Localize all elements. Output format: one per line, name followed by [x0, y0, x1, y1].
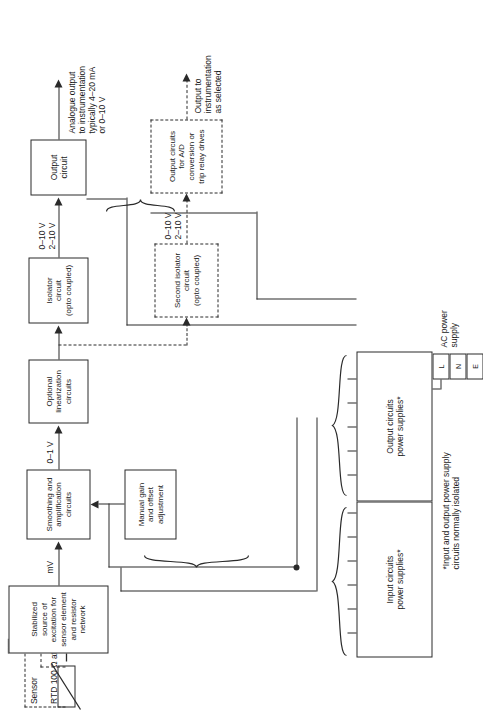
block-optional-linearization: Optional linearization circuits: [28, 359, 88, 423]
arrow-exc-to-smoothing: [54, 541, 62, 549]
wire-output-to-instrumentation: [186, 79, 187, 119]
block-output-circuit-label: Output circuit: [48, 154, 68, 180]
rail-output-b-riser: [188, 212, 256, 213]
block-output-circuit: Output circuit: [30, 139, 86, 195]
tap-to-second-isolator-run: [186, 323, 187, 345]
block-manual-gain-label: Manual gain and offset adjustment: [136, 482, 165, 526]
mains-feed-line: [440, 379, 441, 389]
terminal-E-label: E: [471, 364, 478, 369]
block-excitation-label: Stabilized source of excitation for sens…: [29, 589, 87, 649]
rail-input-secondary-feed: [120, 567, 121, 591]
arrow-output-to-instrumentation: [182, 73, 190, 81]
rail-output-a-drop: [126, 324, 356, 325]
block-second-isolator: Second isolator circuit (opto coupled): [154, 243, 218, 317]
annotation-analogue-output: Analogue output to instrumentation typic…: [66, 65, 106, 133]
block-output-circuits-ad: Output circuits for A/D conversion or tr…: [150, 119, 222, 193]
block-manual-gain-offset: Manual gain and offset adjustment: [124, 469, 176, 539]
terminal-L: L: [432, 353, 449, 379]
brace-over-output-psu: [330, 351, 348, 497]
wire-analogue-output: [58, 85, 59, 139]
signal-label-0-1v: 0–1 V: [44, 441, 54, 463]
junction-dot-input: [293, 564, 299, 570]
block-isolator-circuit: Isolator circuit (opto coupled): [28, 257, 88, 323]
arrow-analogue-output: [54, 79, 62, 87]
arrow-gain-to-smoothing: [90, 501, 98, 509]
arrow-isolator-to-output: [54, 197, 62, 205]
signal-label-second-isolator-in: 0–10 V 2–10 V: [162, 212, 182, 239]
rail-input-top-feed: [108, 503, 109, 567]
brace-over-input-psu: [330, 501, 348, 657]
terminal-E: E: [466, 353, 483, 379]
rail-input-secondary: [120, 590, 316, 591]
wire-smoothing-to-linearization: [58, 431, 59, 469]
mains-feed-riser: [432, 388, 440, 389]
ac-power-supply-label: AC power supply: [438, 310, 458, 347]
wire-gain-to-smoothing: [98, 503, 124, 504]
signal-label-mv: mV: [44, 560, 54, 573]
rail-input-vertical: [108, 566, 296, 567]
wire-exc-to-smoothing: [58, 547, 59, 585]
rail-output-b-drop: [256, 298, 356, 299]
block-smoothing-label: Smoothing and amplification circuits: [44, 477, 73, 531]
block-isolator-label: Isolator circuit (opto coupled): [44, 264, 73, 315]
footnote-isolation: *Input and output power supply circuits …: [440, 452, 460, 569]
block-second-isolator-label: Second isolator circuit (opto coupled): [172, 252, 201, 307]
rail-input-secondary-bottom: [316, 417, 317, 591]
block-output-psu-label: Output circuits power supplies*: [384, 396, 404, 456]
rail-input-bottom-feed: [296, 417, 297, 567]
terminal-N-label: N: [454, 363, 461, 368]
block-smoothing-amplification: Smoothing and amplification circuits: [26, 469, 90, 539]
rail-output-vertical: [86, 198, 126, 199]
rail-output-b: [256, 211, 257, 299]
rail-output-b-vertical: [150, 212, 188, 213]
wire-isolator-to-output: [58, 203, 59, 257]
block-excitation: Stabilized source of excitation for sens…: [8, 585, 108, 653]
block-input-power-supplies: Input circuits power supplies*: [356, 501, 432, 657]
block-linearization-label: Optional linearization circuits: [44, 370, 73, 413]
terminal-L-label: L: [437, 364, 444, 368]
annotation-output-to-instrumentation: Output to instrumentation as selected: [192, 55, 222, 113]
arrow-smoothing-to-linearization: [54, 425, 62, 433]
tap-to-second-isolator: [58, 344, 186, 345]
rail-output-a: [126, 197, 127, 325]
block-output-circuits-ad-label: Output circuits for A/D conversion or tr…: [167, 129, 205, 183]
block-output-power-supplies: Output circuits power supplies*: [356, 351, 432, 501]
signal-label-isolator-out: 0–10 V 2–10 V: [36, 222, 56, 249]
block-input-psu-label: Input circuits power supplies*: [384, 549, 404, 609]
terminal-N: N: [449, 353, 466, 379]
arrow-linearization-to-isolator: [54, 325, 62, 333]
